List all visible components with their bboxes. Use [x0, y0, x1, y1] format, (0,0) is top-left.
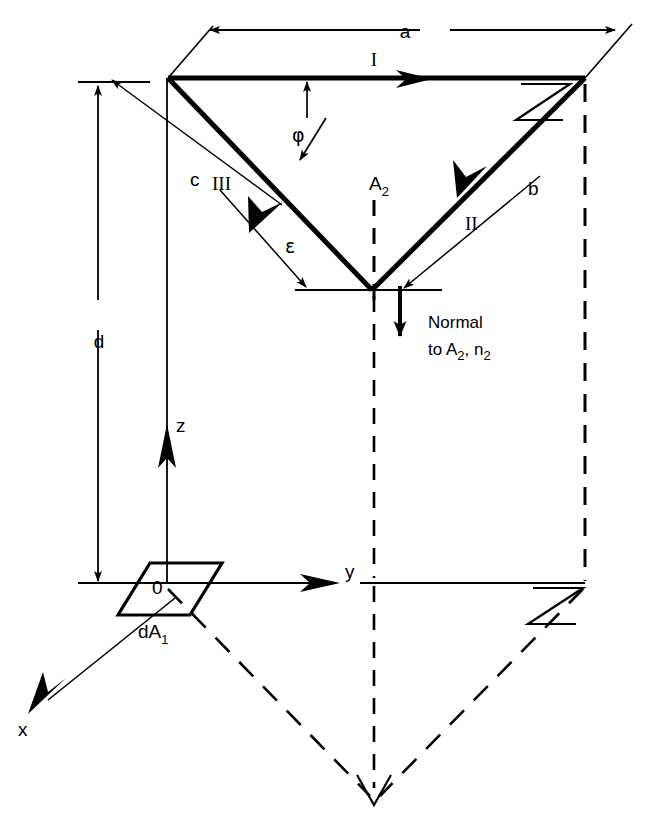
dimension-d-group [78, 82, 150, 581]
label-dimension-d: d [94, 331, 105, 352]
label-axis-z: z [176, 415, 186, 436]
text-labels: a I φ c III ε A2 II b Normal to A2, n2 d… [18, 21, 539, 740]
triangle-side-II [372, 78, 585, 290]
dimension-a-extension-right [585, 24, 632, 78]
radiation-geometry-figure: a I φ c III ε A2 II b Normal to A2, n2 d… [0, 0, 663, 827]
diagram-canvas: a I φ c III ε A2 II b Normal to A2, n2 d… [0, 0, 663, 827]
label-normal-mid: , n [465, 340, 484, 359]
label-angle-epsilon: ε [285, 235, 295, 257]
label-normal-line2: to A2, n2 [428, 340, 491, 363]
label-dimension-b: b [528, 178, 539, 199]
dimension-a-extension-left [168, 26, 213, 78]
x-axis-arrowhead [28, 672, 66, 714]
x-axis-line [48, 598, 175, 700]
label-element-dA1: dA1 [138, 621, 168, 647]
label-side-II: II [465, 213, 478, 234]
dA1-outline [118, 563, 222, 615]
label-dimension-a: a [400, 21, 411, 42]
label-normal-sub1: 2 [457, 348, 464, 363]
label-dA1-sub: 1 [161, 632, 168, 647]
label-dimension-c: c [190, 169, 200, 190]
label-dA1-base: dA [138, 621, 162, 642]
label-side-I: I [371, 49, 377, 70]
label-axis-y: y [345, 561, 355, 582]
label-area-A2-base: A [369, 173, 382, 194]
label-normal-prefix: to A [428, 340, 458, 359]
projected-side-right [380, 589, 583, 796]
label-origin: 0 [152, 577, 163, 598]
label-area-A2: A2 [369, 173, 389, 199]
label-normal-line1: Normal [428, 313, 483, 332]
projected-side-left [168, 589, 370, 796]
label-angle-phi: φ [292, 124, 305, 146]
label-normal-sub2: 2 [483, 348, 490, 363]
label-side-III: III [212, 173, 231, 194]
label-axis-x: x [18, 719, 28, 740]
element-dA1-parallelogram [118, 563, 222, 615]
label-area-A2-sub: 2 [382, 184, 389, 199]
projected-triangle [168, 589, 583, 796]
